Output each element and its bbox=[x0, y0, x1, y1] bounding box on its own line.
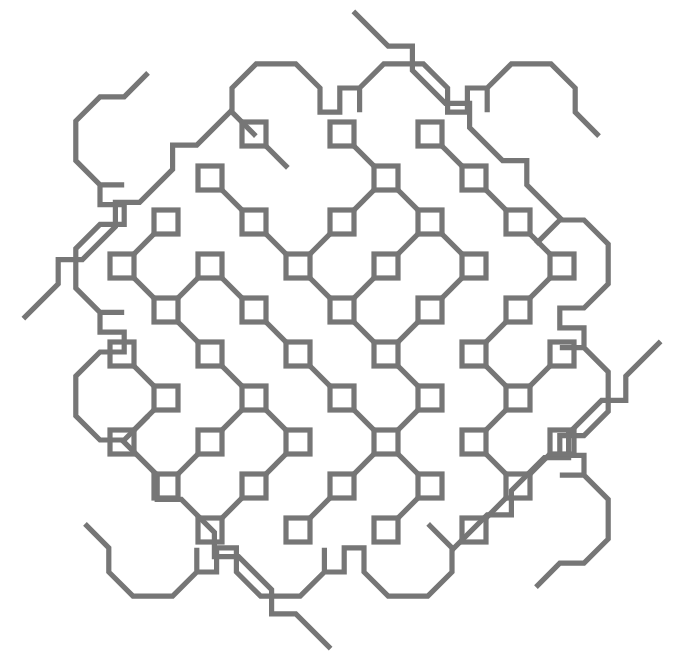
figure-canvas bbox=[0, 0, 685, 664]
lattice-curve-figure bbox=[0, 0, 685, 664]
